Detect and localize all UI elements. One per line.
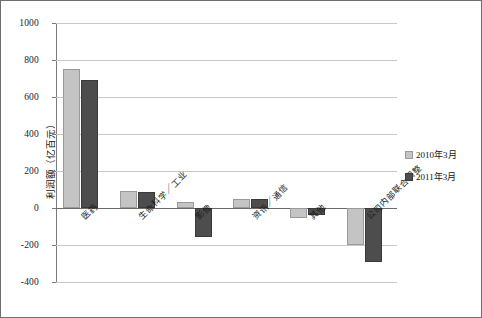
bar-group: [120, 23, 155, 282]
y-tick-mark--400: [52, 282, 56, 283]
chart-legend: 2010年3月2011年3月: [405, 148, 477, 192]
bar: [290, 208, 307, 218]
y-tick-label: 600: [24, 92, 39, 102]
bar: [177, 202, 194, 208]
y-tick-label: 0: [34, 203, 39, 213]
legend-item: 2011年3月: [405, 170, 477, 183]
legend-item: 2010年3月: [405, 148, 477, 161]
bar-group: [63, 23, 98, 282]
gridline--400: [56, 282, 397, 283]
y-tick-label: 400: [24, 129, 39, 139]
bar: [347, 208, 364, 245]
y-tick-label: 200: [24, 166, 39, 176]
bar: [120, 191, 137, 208]
y-axis-tick-labels: 10008006004002000-200-400: [0, 23, 39, 282]
y-tick-label: 800: [24, 55, 39, 65]
legend-swatch-icon: [405, 151, 413, 159]
bar-group: [233, 23, 268, 282]
bar: [81, 80, 98, 208]
bar-group: [177, 23, 212, 282]
y-axis-title: 利润额（亿百元）: [43, 119, 57, 199]
plot-area: [56, 23, 397, 282]
legend-swatch-icon: [405, 173, 413, 181]
bar-group: [290, 23, 325, 282]
legend-label: 2011年3月: [416, 170, 456, 183]
bar-group: [347, 23, 382, 282]
bar: [63, 69, 80, 208]
y-tick-label: -200: [21, 240, 39, 250]
bar-series-container: [56, 23, 397, 282]
legend-label: 2010年3月: [416, 148, 457, 161]
chart-figure: 利润额（亿百元） 10008006004002000-200-400 医药生命科…: [0, 0, 482, 318]
y-tick-label: -400: [21, 277, 39, 287]
y-tick-label: 1000: [19, 18, 39, 28]
bar: [233, 199, 250, 208]
